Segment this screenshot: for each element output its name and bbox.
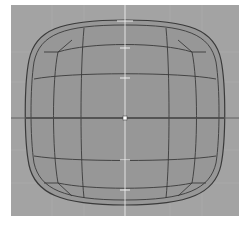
3d-viewport[interactable] [11, 5, 239, 216]
viewport-canvas[interactable] [11, 5, 239, 216]
pivot-point[interactable] [123, 116, 127, 120]
